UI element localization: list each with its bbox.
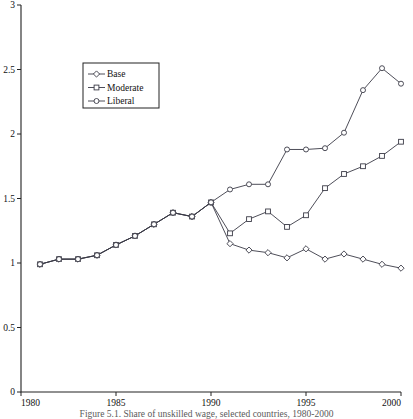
data-point-base xyxy=(341,251,347,257)
data-point-moderate xyxy=(247,217,252,222)
y-tick-label: 1.5 xyxy=(3,194,15,204)
tick-labels: 00.511.522.5319801985199019952000 xyxy=(3,0,401,408)
data-point-liberal xyxy=(209,200,214,205)
y-tick-label: 1 xyxy=(10,258,15,268)
data-point-moderate xyxy=(361,164,366,169)
figure-container: 00.511.522.5319801985199019952000 BaseMo… xyxy=(0,0,413,419)
data-point-liberal xyxy=(247,182,252,187)
figure-caption: Figure 5.1. Share of unskilled wage, sel… xyxy=(0,408,413,419)
data-point-liberal xyxy=(228,187,233,192)
data-point-moderate xyxy=(399,139,404,144)
data-point-base xyxy=(398,265,404,271)
legend-label-liberal[interactable]: Liberal xyxy=(107,96,135,106)
square-marker-icon xyxy=(94,85,99,90)
series-line-moderate xyxy=(40,142,401,265)
data-point-liberal xyxy=(171,210,176,215)
data-point-liberal xyxy=(38,262,43,267)
x-tick-label: 1985 xyxy=(107,398,126,408)
x-tick-label: 2000 xyxy=(382,398,401,408)
x-tick-label: 1990 xyxy=(202,398,221,408)
data-point-liberal xyxy=(380,66,385,71)
data-point-moderate xyxy=(266,209,271,214)
data-point-moderate xyxy=(228,231,233,236)
data-point-moderate xyxy=(323,186,328,191)
x-tick-label: 1980 xyxy=(21,398,40,408)
data-point-liberal xyxy=(190,214,195,219)
chart-legend[interactable]: BaseModerateLiberal xyxy=(83,63,159,108)
data-point-moderate xyxy=(304,213,309,218)
data-point-base xyxy=(265,250,271,256)
data-point-moderate xyxy=(380,154,385,159)
data-point-liberal xyxy=(152,222,157,227)
data-point-base xyxy=(322,256,328,262)
data-point-base xyxy=(227,241,233,247)
data-point-base xyxy=(379,261,385,267)
data-point-liberal xyxy=(133,233,138,238)
data-point-base xyxy=(246,247,252,253)
data-point-moderate xyxy=(342,172,347,177)
data-point-moderate xyxy=(285,224,290,229)
data-point-liberal xyxy=(95,253,100,258)
data-point-base xyxy=(284,255,290,261)
data-point-liberal xyxy=(285,147,290,152)
y-tick-label: 3 xyxy=(10,0,15,10)
y-tick-label: 2.5 xyxy=(3,65,15,75)
y-tick-label: 2 xyxy=(10,129,15,139)
data-point-liberal xyxy=(342,130,347,135)
data-point-liberal xyxy=(266,182,271,187)
data-point-liberal xyxy=(304,147,309,152)
x-tick-label: 1995 xyxy=(297,398,316,408)
data-point-liberal xyxy=(76,257,81,262)
line-chart: 00.511.522.5319801985199019952000 BaseMo… xyxy=(0,0,413,419)
data-point-liberal xyxy=(57,257,62,262)
y-tick-label: 0 xyxy=(10,387,15,397)
series-line-base xyxy=(40,202,401,268)
legend-label-moderate[interactable]: Moderate xyxy=(107,83,143,93)
axis-lines xyxy=(21,5,401,392)
circle-marker-icon xyxy=(94,99,99,104)
data-point-base xyxy=(303,246,309,252)
data-point-base xyxy=(360,256,366,262)
legend-label-base[interactable]: Base xyxy=(107,69,125,79)
y-tick-label: 0.5 xyxy=(3,323,15,333)
data-point-liberal xyxy=(114,242,119,247)
data-point-liberal xyxy=(361,88,366,93)
data-point-liberal xyxy=(399,81,404,86)
data-point-liberal xyxy=(323,146,328,151)
